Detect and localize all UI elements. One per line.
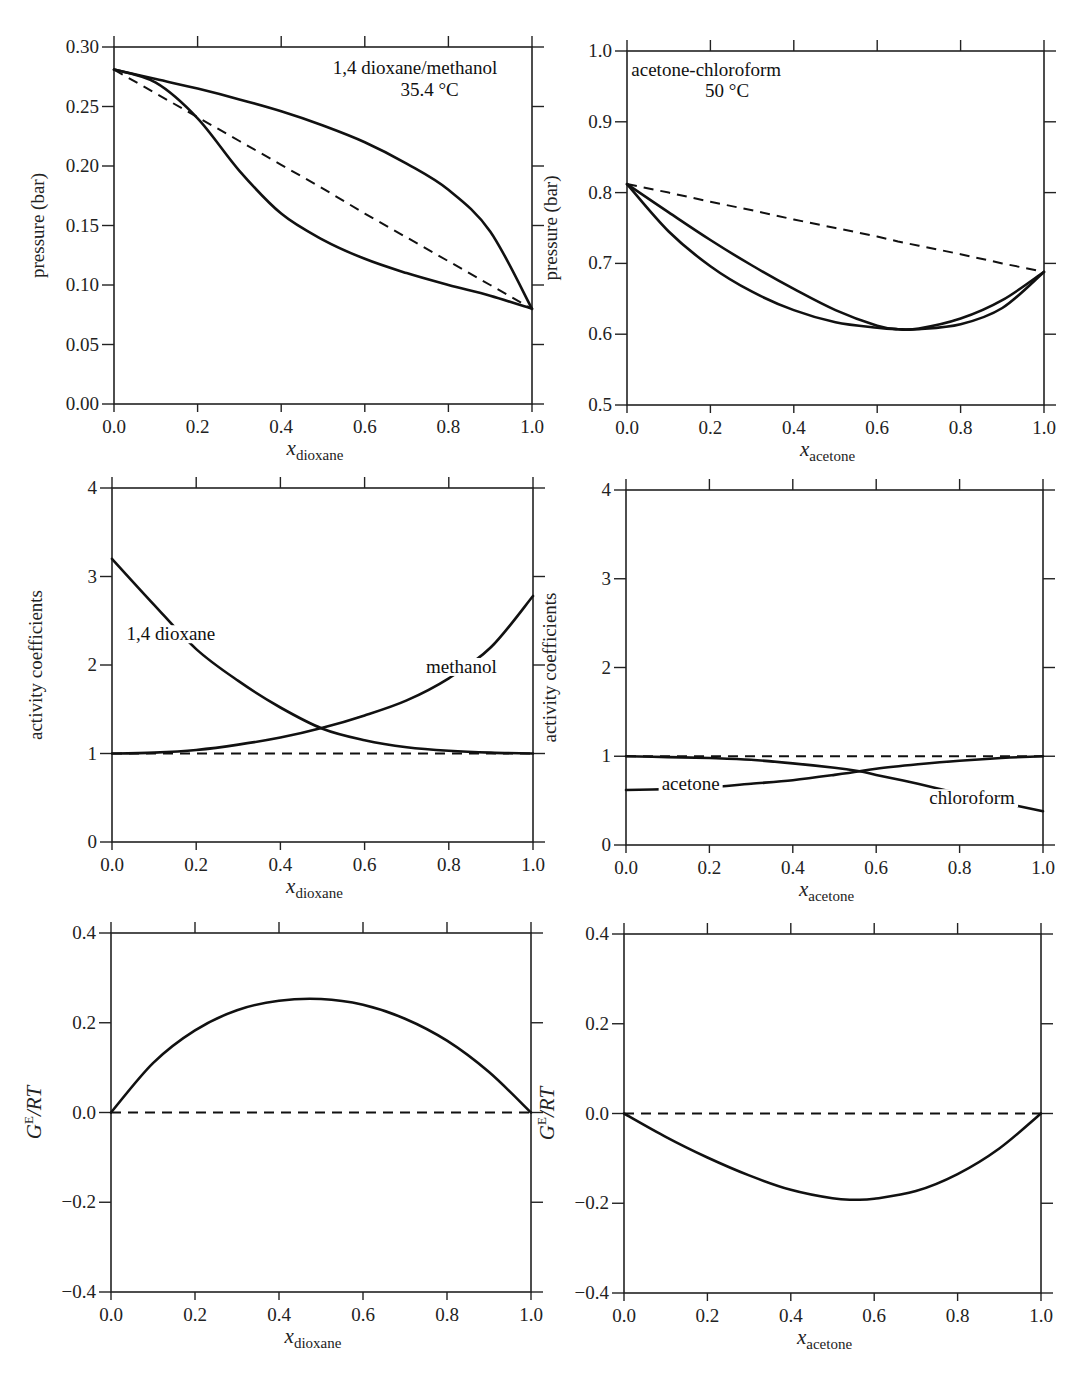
- annotation-label: chloroform: [929, 787, 1015, 808]
- x-tick-label: 0.2: [183, 1304, 207, 1325]
- x-tick-label: 0.2: [696, 1305, 720, 1326]
- y-tick-label: 0.00: [66, 393, 99, 414]
- y-axis-label: activity coefficients: [539, 592, 560, 742]
- x-tick-label: 0.2: [698, 857, 722, 878]
- y-tick-label: −0.4: [62, 1281, 97, 1302]
- y-tick-label: 1.0: [588, 40, 612, 61]
- y-tick-label: −0.2: [575, 1192, 609, 1213]
- y-tick-label: 0.2: [72, 1012, 96, 1033]
- y-tick-label: 0.9: [588, 111, 612, 132]
- chart-pressure-acetone-chloroform: 0.00.20.40.60.81.00.50.60.70.80.91.0xace…: [540, 40, 1056, 464]
- x-tick-label: 0.8: [949, 417, 973, 438]
- x-tick-label: 1.0: [521, 854, 545, 875]
- y-axis-label: activity coefficients: [25, 590, 46, 740]
- series-g-e-rt: [111, 999, 531, 1113]
- figure-canvas: 0.00.20.40.60.81.00.000.050.100.150.200.…: [0, 0, 1080, 1380]
- x-axis-label: xacetone: [796, 1325, 852, 1352]
- x-tick-label: 0.4: [781, 857, 805, 878]
- x-axis-label: xdioxane: [286, 436, 344, 463]
- x-tick-label: 0.2: [699, 417, 723, 438]
- y-tick-label: 4: [602, 479, 612, 500]
- y-tick-label: 0.6: [588, 323, 612, 344]
- x-tick-label: 1.0: [520, 416, 544, 437]
- x-tick-label: 1.0: [1032, 417, 1056, 438]
- chart-pressure-dioxane-methanol: 0.00.20.40.60.81.00.000.050.100.150.200.…: [27, 36, 544, 463]
- chart-excess-gibbs-dioxane-methanol: 0.00.20.40.60.81.0−0.4−0.20.00.20.4xdiox…: [21, 922, 543, 1351]
- x-tick-label: 0.8: [435, 1304, 459, 1325]
- annotation-label: 1,4 dioxane: [127, 623, 216, 644]
- y-tick-label: 0.7: [588, 252, 612, 273]
- chart-excess-gibbs-acetone-chloroform: 0.00.20.40.60.81.0−0.4−0.20.00.20.4xacet…: [534, 923, 1053, 1352]
- y-tick-label: 0.10: [66, 274, 99, 295]
- x-tick-label: 0.6: [864, 857, 888, 878]
- x-tick-label: 0.8: [437, 416, 461, 437]
- x-tick-label: 1.0: [519, 1304, 543, 1325]
- y-tick-label: −0.2: [62, 1191, 96, 1212]
- y-tick-label: 0.2: [585, 1013, 609, 1034]
- x-tick-label: 1.0: [1031, 857, 1055, 878]
- x-tick-label: 0.8: [948, 857, 972, 878]
- x-tick-label: 0.4: [782, 417, 806, 438]
- y-tick-label: 0.8: [588, 182, 612, 203]
- x-tick-label: 0.4: [269, 854, 293, 875]
- y-tick-label: −0.4: [575, 1282, 610, 1303]
- annotation-label: 35.4 °C: [400, 79, 458, 100]
- plot-frame: [114, 47, 532, 404]
- x-tick-label: 0.8: [437, 854, 461, 875]
- annotation-label: 50 °C: [705, 80, 749, 101]
- x-tick-label: 0.4: [269, 416, 293, 437]
- x-tick-label: 0.4: [779, 1305, 803, 1326]
- x-tick-label: 0.0: [99, 1304, 123, 1325]
- y-axis-label: pressure (bar): [540, 176, 562, 281]
- y-tick-label: 0.05: [66, 334, 99, 355]
- y-tick-label: 0.4: [585, 923, 609, 944]
- y-tick-label: 3: [88, 566, 98, 587]
- series-dew-line-vapor: [627, 184, 1044, 330]
- chart-activity-dioxane-methanol: 0.00.20.40.60.81.001234xdioxaneactivity …: [25, 477, 545, 901]
- annotation-label: 1,4 dioxane/methanol: [333, 57, 498, 78]
- x-axis-label: xacetone: [799, 437, 855, 464]
- y-tick-label: 2: [602, 657, 612, 678]
- y-tick-label: 0.20: [66, 155, 99, 176]
- x-tick-label: 0.0: [100, 854, 124, 875]
- x-tick-label: 0.2: [184, 854, 208, 875]
- x-tick-label: 1.0: [1029, 1305, 1053, 1326]
- y-tick-label: 0: [602, 834, 612, 855]
- y-tick-label: 0.30: [66, 36, 99, 57]
- y-tick-label: 0.0: [72, 1102, 96, 1123]
- y-tick-label: 0.4: [72, 922, 96, 943]
- y-tick-label: 0.0: [585, 1103, 609, 1124]
- x-tick-label: 0.6: [351, 1304, 375, 1325]
- series-raoult-s-law-ideal: [114, 70, 532, 309]
- series-g-e-rt: [624, 1114, 1041, 1200]
- x-tick-label: 0.0: [612, 1305, 636, 1326]
- annotation-label: acetone: [662, 773, 720, 794]
- x-tick-label: 0.4: [267, 1304, 291, 1325]
- x-tick-label: 0.0: [102, 416, 126, 437]
- y-axis-label: pressure (bar): [27, 173, 49, 278]
- x-tick-label: 0.6: [353, 854, 377, 875]
- y-tick-label: 0.25: [66, 96, 99, 117]
- series-bubble-line-liquid: [627, 184, 1044, 330]
- chart-activity-acetone-chloroform: 0.00.20.40.60.81.001234xacetoneactivity …: [539, 479, 1055, 904]
- y-tick-label: 0.5: [588, 394, 612, 415]
- y-tick-label: 0: [88, 831, 98, 852]
- x-tick-label: 0.0: [615, 417, 639, 438]
- x-tick-label: 0.6: [862, 1305, 886, 1326]
- series-raoult-s-law-ideal: [627, 184, 1044, 272]
- x-tick-label: 0.6: [865, 417, 889, 438]
- x-axis-label: xacetone: [798, 877, 854, 904]
- y-tick-label: 4: [88, 477, 98, 498]
- y-tick-label: 1: [602, 745, 612, 766]
- x-tick-label: 0.0: [614, 857, 638, 878]
- annotation-label: methanol: [426, 656, 497, 677]
- x-tick-label: 0.8: [946, 1305, 970, 1326]
- y-axis-label: GE/RT: [534, 1085, 559, 1140]
- x-tick-label: 0.6: [353, 416, 377, 437]
- x-tick-label: 0.2: [186, 416, 210, 437]
- x-axis-label: xdioxane: [285, 874, 343, 901]
- annotation-label: acetone-chloroform: [631, 59, 781, 80]
- y-tick-label: 1: [88, 743, 98, 764]
- y-tick-label: 2: [88, 654, 98, 675]
- y-tick-label: 3: [602, 568, 612, 589]
